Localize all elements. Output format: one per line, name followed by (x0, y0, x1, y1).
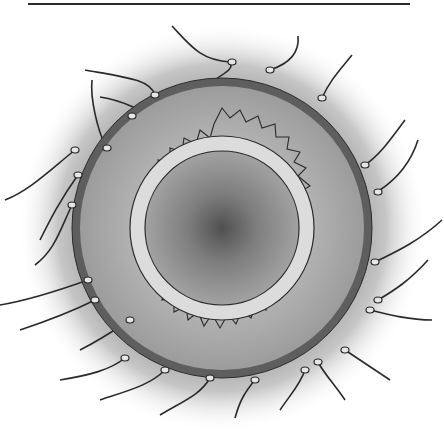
sperm-head (374, 189, 382, 195)
sperm-head (121, 355, 129, 361)
sperm-head (361, 162, 369, 168)
egg-cell-illustration (0, 0, 444, 433)
cytoplasm (145, 151, 299, 305)
sperm-head (314, 359, 322, 365)
sperm-head (68, 202, 76, 208)
sperm-head (206, 375, 214, 381)
sperm-head (301, 367, 309, 373)
sperm-head (318, 95, 326, 101)
sperm-head (374, 297, 382, 303)
sperm-head (341, 347, 349, 353)
sperm-head (366, 307, 374, 313)
sperm-head (91, 297, 99, 303)
sperm-head (151, 92, 159, 98)
sperm-head (71, 147, 79, 153)
sperm-head (266, 67, 274, 73)
sperm-head (228, 59, 236, 65)
sperm-head (74, 172, 82, 178)
sperm-head (103, 145, 111, 151)
sperm-head (161, 367, 169, 373)
sperm-head (126, 317, 134, 323)
sperm-head (84, 277, 92, 283)
sperm-head (251, 377, 259, 383)
sperm-head (371, 259, 379, 265)
sperm-head (128, 113, 136, 119)
